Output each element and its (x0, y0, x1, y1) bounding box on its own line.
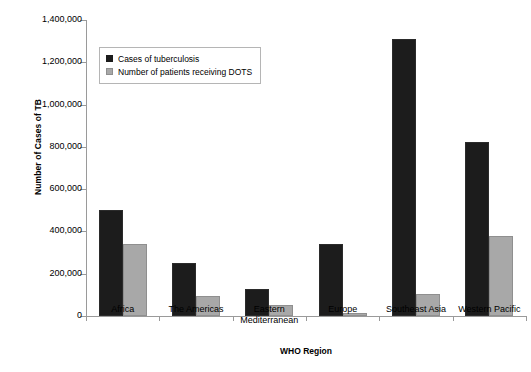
x-axis-tick-mark (159, 316, 160, 321)
legend-item: Cases of tuberculosis (106, 52, 252, 65)
y-axis-tick-label: 400,000 (49, 225, 82, 235)
x-axis-category-label: Southeast Asia (379, 304, 452, 315)
chart-legend: Cases of tuberculosis Number of patients… (99, 47, 261, 84)
x-axis-category-label: Western Pacific (453, 304, 526, 315)
y-axis-tick-label: 600,000 (49, 183, 82, 193)
bar (99, 210, 123, 316)
x-axis-tick-mark (526, 316, 527, 321)
x-axis-tick-mark (306, 316, 307, 321)
y-axis-tick-label: 800,000 (49, 141, 82, 151)
bar-group (453, 20, 526, 316)
dark-square-swatch-icon (106, 55, 113, 62)
tb-cases-bar-chart: Number of Cases of TB 1,400,0001,200,000… (0, 0, 531, 372)
y-axis-tick-label: 200,000 (49, 268, 82, 278)
x-axis-title: WHO Region (86, 346, 526, 356)
y-axis-tick-label: 1,200,000 (42, 56, 82, 66)
legend-item-label: Number of patients receiving DOTS (118, 67, 252, 77)
x-axis-category-label: The Americas (159, 304, 232, 315)
x-axis-tick-mark (379, 316, 380, 321)
legend-item: Number of patients receiving DOTS (106, 65, 252, 78)
bar-group (306, 20, 379, 316)
y-axis-tick-label: 1,000,000 (42, 99, 82, 109)
x-axis-category-label: Eastern Mediterranean (233, 304, 306, 326)
y-axis-tick-label: 0 (77, 310, 82, 320)
gray-square-swatch-icon (106, 68, 113, 75)
y-axis-tick-label: 1,400,000 (42, 14, 82, 24)
x-axis-category-label: Africa (86, 304, 159, 315)
bar (392, 39, 416, 316)
bar-group (379, 20, 452, 316)
x-axis-tick-mark (453, 316, 454, 321)
x-axis-tick-mark (86, 316, 87, 321)
bar (465, 142, 489, 316)
legend-item-label: Cases of tuberculosis (118, 54, 199, 64)
x-axis-category-label: Europe (306, 304, 379, 315)
